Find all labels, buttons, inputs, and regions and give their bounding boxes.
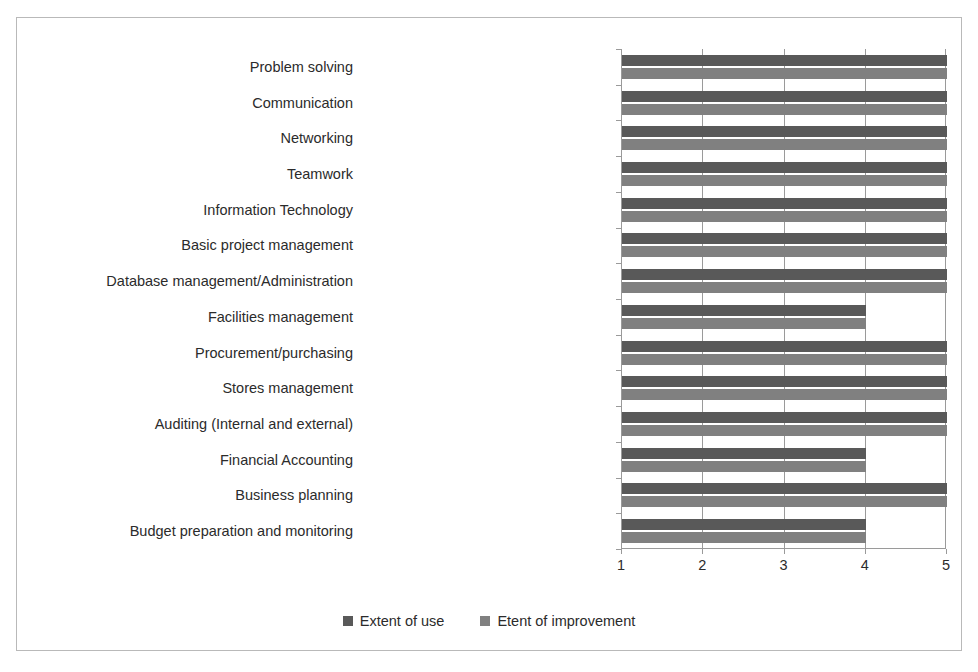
- category-tick: [616, 442, 621, 443]
- category-tick: [616, 335, 621, 336]
- bar-group: [622, 49, 946, 85]
- bar: [622, 55, 947, 66]
- category-tick: [616, 406, 621, 407]
- category-label: Problem solving: [250, 60, 353, 75]
- bar: [622, 211, 947, 222]
- bar: [622, 91, 947, 102]
- value-tick: [621, 549, 622, 554]
- value-tick-label: 3: [764, 558, 804, 573]
- category-label: Business planning: [235, 488, 353, 503]
- bar: [622, 412, 947, 423]
- legend-item[interactable]: Etent of improvement: [480, 614, 635, 629]
- bar: [622, 126, 947, 137]
- bar: [622, 519, 866, 530]
- bar-group: [622, 228, 946, 264]
- bar: [622, 425, 947, 436]
- bar: [622, 233, 947, 244]
- value-tick-label: 2: [682, 558, 722, 573]
- bar: [622, 305, 866, 316]
- bar: [622, 318, 866, 329]
- bar-group: [622, 478, 946, 514]
- category-label: Facilities management: [208, 310, 353, 325]
- bar: [622, 198, 947, 209]
- bar: [622, 461, 866, 472]
- bar-group: [622, 513, 946, 549]
- category-tick: [616, 299, 621, 300]
- bar: [622, 139, 947, 150]
- category-tick: [616, 85, 621, 86]
- bar-group: [622, 406, 946, 442]
- legend-label: Extent of use: [360, 614, 445, 629]
- plot-area: [621, 49, 946, 549]
- bar-group: [622, 442, 946, 478]
- legend-swatch-icon: [480, 616, 490, 626]
- value-tick-label: 1: [601, 558, 641, 573]
- category-tick: [616, 156, 621, 157]
- category-label: Budget preparation and monitoring: [130, 524, 353, 539]
- bar: [622, 68, 947, 79]
- value-tick: [702, 549, 703, 554]
- category-tick: [616, 120, 621, 121]
- chart-legend: Extent of useEtent of improvement: [17, 614, 961, 629]
- bar-group: [622, 263, 946, 299]
- bar-group: [622, 85, 946, 121]
- value-tick: [946, 549, 947, 554]
- legend-item[interactable]: Extent of use: [343, 614, 445, 629]
- category-label: Basic project management: [181, 238, 353, 253]
- chart-frame: Problem solvingCommunicationNetworkingTe…: [16, 17, 962, 651]
- category-label: Networking: [280, 131, 353, 146]
- legend-swatch-icon: [343, 616, 353, 626]
- bar: [622, 341, 947, 352]
- value-tick-label: 4: [845, 558, 885, 573]
- bar: [622, 104, 947, 115]
- bar: [622, 282, 947, 293]
- bar: [622, 496, 947, 507]
- category-tick: [616, 513, 621, 514]
- category-tick: [616, 228, 621, 229]
- bar-group: [622, 120, 946, 156]
- category-label: Financial Accounting: [220, 453, 353, 468]
- bar-group: [622, 370, 946, 406]
- grouped-bar-chart: Problem solvingCommunicationNetworkingTe…: [17, 18, 961, 650]
- category-label: Auditing (Internal and external): [155, 417, 353, 432]
- bar: [622, 246, 947, 257]
- category-label: Information Technology: [203, 203, 353, 218]
- category-tick: [616, 49, 621, 50]
- category-tick: [616, 192, 621, 193]
- category-tick: [616, 370, 621, 371]
- category-tick: [616, 478, 621, 479]
- bar: [622, 354, 947, 365]
- bar: [622, 376, 947, 387]
- bar-group: [622, 299, 946, 335]
- category-label: Teamwork: [287, 167, 353, 182]
- bar: [622, 448, 866, 459]
- value-tick: [784, 549, 785, 554]
- bar: [622, 532, 866, 543]
- category-label: Procurement/purchasing: [195, 346, 353, 361]
- bar: [622, 389, 947, 400]
- bar-group: [622, 192, 946, 228]
- bar: [622, 175, 947, 186]
- bar: [622, 162, 947, 173]
- category-label: Stores management: [222, 381, 353, 396]
- value-tick-label: 5: [926, 558, 966, 573]
- category-tick: [616, 263, 621, 264]
- legend-label: Etent of improvement: [497, 614, 635, 629]
- bar-group: [622, 156, 946, 192]
- bar: [622, 483, 947, 494]
- bar: [622, 269, 947, 280]
- value-tick: [865, 549, 866, 554]
- bar-group: [622, 335, 946, 371]
- category-label: Communication: [252, 96, 353, 111]
- category-label: Database management/Administration: [106, 274, 353, 289]
